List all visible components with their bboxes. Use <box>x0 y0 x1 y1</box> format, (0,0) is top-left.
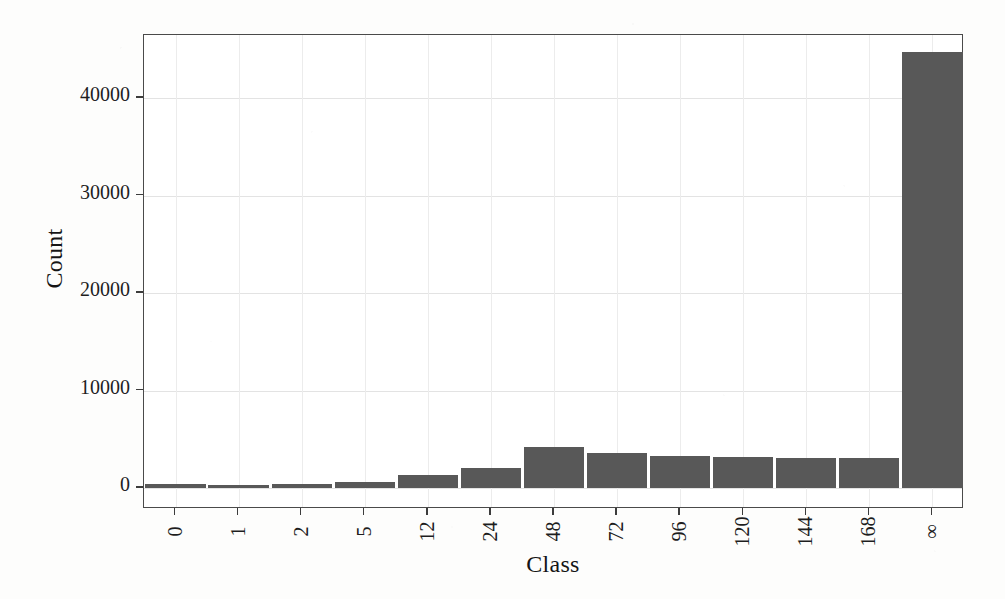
x-axis-tick-label-text: 2 <box>289 527 312 537</box>
x-axis-tick-label-text: 72 <box>605 522 628 542</box>
gridline-vertical <box>617 35 618 507</box>
y-axis-tick-mark <box>136 291 143 292</box>
gridline-horizontal <box>144 196 962 197</box>
x-axis-tick-label: 2 <box>271 520 331 543</box>
y-axis-tick-mark <box>136 389 143 390</box>
bar <box>461 468 521 488</box>
y-axis-tick-mark <box>136 486 143 487</box>
x-axis-tick-label: 96 <box>649 520 709 543</box>
y-axis-tick-label: 0 <box>0 473 130 496</box>
x-axis-tick-label: 0 <box>145 520 205 543</box>
bar <box>713 457 773 488</box>
plot-area <box>143 34 963 508</box>
plot-inner <box>144 35 962 507</box>
x-axis-tick-mark <box>174 508 175 515</box>
x-axis-tick-label-text: 5 <box>352 527 375 537</box>
x-axis-tick-mark <box>615 508 616 515</box>
x-axis-tick-label-text: 48 <box>542 522 565 542</box>
gridline-vertical <box>365 35 366 507</box>
x-axis-tick-label: 48 <box>523 520 583 543</box>
x-axis-tick-label-text: 24 <box>478 522 501 542</box>
x-axis-tick-label-text: 120 <box>731 517 754 547</box>
bar <box>839 458 899 488</box>
gridline-vertical <box>428 35 429 507</box>
chart-figure: 010000200003000040000 Count 012512244872… <box>0 0 1005 599</box>
x-axis-tick-label-text: 0 <box>163 527 186 537</box>
x-axis-tick-label-text: 12 <box>415 522 438 542</box>
x-axis-tick-mark <box>678 508 679 515</box>
gridline-horizontal <box>144 293 962 294</box>
bar <box>208 485 268 488</box>
x-axis-tick-label: 168 <box>838 520 898 543</box>
x-axis-tick-mark <box>237 508 238 515</box>
x-axis-tick-label-text: ∞ <box>920 524 943 538</box>
x-axis-tick-label-text: 96 <box>668 522 691 542</box>
gridline-vertical <box>176 35 177 507</box>
x-axis-tick-label: 1 <box>208 520 268 543</box>
gridline-horizontal <box>144 488 962 489</box>
x-axis-tick-mark <box>742 508 743 515</box>
x-axis-title: Class <box>143 551 963 578</box>
gridline-vertical <box>554 35 555 507</box>
x-axis-tick-label-text: 168 <box>857 517 880 547</box>
x-axis-tick-label: 12 <box>397 520 457 543</box>
bar <box>650 456 710 488</box>
y-axis-tick-label: 40000 <box>0 83 130 106</box>
bar <box>524 447 584 488</box>
bar <box>335 482 395 488</box>
x-axis-tick-label-text: 144 <box>794 517 817 547</box>
bar <box>587 453 647 488</box>
gridline-vertical <box>806 35 807 507</box>
x-axis-tick-label-text: 1 <box>226 527 249 537</box>
x-axis-tick-mark <box>552 508 553 515</box>
gridline-vertical <box>491 35 492 507</box>
x-axis-tick-mark <box>931 508 932 515</box>
x-axis-tick-mark <box>300 508 301 515</box>
y-axis-tick-label: 10000 <box>0 376 130 399</box>
gridline-vertical <box>302 35 303 507</box>
gridline-vertical <box>869 35 870 507</box>
bar <box>272 484 332 488</box>
x-axis-tick-mark <box>489 508 490 515</box>
y-axis-tick-mark <box>136 96 143 97</box>
x-axis-tick-label: 5 <box>334 520 394 543</box>
x-axis-tick-label: 24 <box>460 520 520 543</box>
gridline-vertical <box>680 35 681 507</box>
gridline-horizontal <box>144 98 962 99</box>
y-axis-tick-mark <box>136 194 143 195</box>
bar <box>398 475 458 488</box>
x-axis-tick-label: ∞ <box>901 520 961 543</box>
x-axis-tick-label: 72 <box>586 520 646 543</box>
x-axis-tick-label: 120 <box>712 520 772 543</box>
x-axis-tick-mark <box>363 508 364 515</box>
x-axis-tick-mark <box>868 508 869 515</box>
bar <box>776 458 836 488</box>
bar <box>145 484 205 488</box>
y-axis-title: Count <box>41 199 68 319</box>
bar <box>902 52 962 488</box>
x-axis-tick-mark <box>805 508 806 515</box>
x-axis-tick-label: 144 <box>775 520 835 543</box>
x-axis-tick-mark <box>426 508 427 515</box>
gridline-vertical <box>239 35 240 507</box>
gridline-horizontal <box>144 391 962 392</box>
gridline-vertical <box>743 35 744 507</box>
